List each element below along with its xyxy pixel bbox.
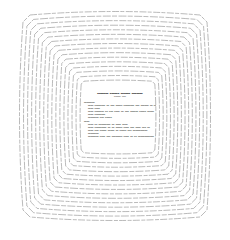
section-2: ▬▬▬▬ ▬▬▬▬ ▬▬ ▬▬▬▬▬▬▬▬▬ ▬▬ ▬▬▬▬ ▬▬▬▬ ▬▬▬▬…	[84, 120, 156, 138]
list-item: ▬▬▬▬▬▬▬▬ ▬▬▬ ▬▬▬▬▬	[84, 116, 156, 119]
document-body: ▬▬▬▬▬▬▬ ▬▬▬▬▬▬ ▬▬▬▬▬▬ ▬▬▬▬▬▬▬ ▬▬▬▬▬ ▬▬▬ …	[84, 92, 156, 140]
list-item: ▬▬▬▬▬▬▬▬ ▬▬▬▬ ▬▬▬ ▬▬▬▬▬▬▬▬ ▬▬▬▬ ▬▬ ▬▬ ▬▬…	[84, 135, 156, 138]
section-1: ▬▬▬▬▬▬▬▬ ▬▬▬▬ ▬▬▬▬▬▬▬▬ ▬▬ ▬▬▬ ▬▬▬▬▬ ▬▬▬▬…	[84, 101, 156, 119]
document-subtitle: ▬▬▬▬▬ ▬▬▬	[84, 95, 156, 98]
